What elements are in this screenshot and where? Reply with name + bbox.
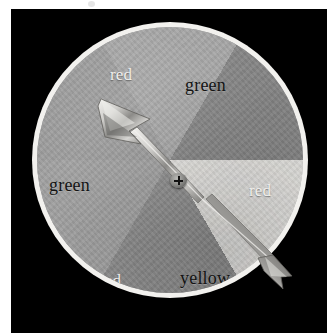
figure-container: red green red yellow red green (0, 0, 327, 333)
photo-panel: red green red yellow red green (11, 9, 327, 333)
scan-artifact-mark (88, 1, 95, 7)
pivot-plus-cross-icon (174, 176, 183, 185)
sector-green-left[interactable] (37, 27, 303, 293)
spinner-disc[interactable]: red green red yellow red green (37, 27, 303, 293)
